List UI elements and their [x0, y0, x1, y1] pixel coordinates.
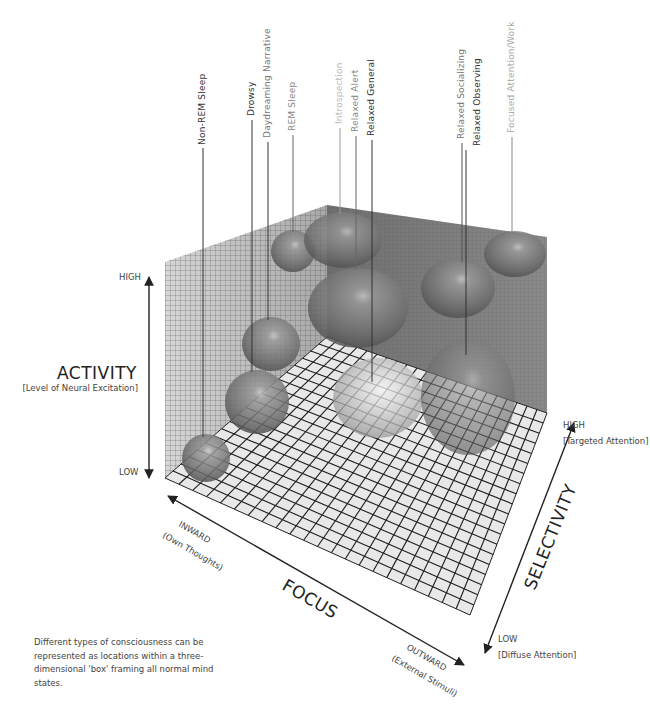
sphere-non-rem-sleep	[182, 434, 230, 482]
activity-axis-title: ACTIVITY	[57, 363, 137, 383]
sphere-focused-attention	[484, 231, 546, 277]
activity-axis-subtitle: [Level of Neural Excitation]	[22, 383, 138, 393]
label-relaxed-general: Relaxed General	[366, 59, 376, 136]
sphere-relaxed-socializing	[421, 258, 495, 318]
selectivity-low-subtitle: [Diffuse Attention]	[498, 650, 576, 660]
activity-high-label: HIGH	[119, 272, 141, 282]
selectivity-high-label: HIGH	[563, 420, 585, 430]
label-introspection: Introspection	[334, 62, 344, 124]
label-drowsy: Drowsy	[246, 81, 256, 116]
label-rem-sleep: REM Sleep	[287, 82, 297, 131]
sphere-relaxed-alert	[308, 268, 408, 348]
sphere-drowsy	[225, 370, 289, 434]
consciousness-box-diagram: Non-REM Sleep Drowsy Daydreaming Narrati…	[0, 0, 650, 713]
label-daydreaming-narrative: Daydreaming Narrative	[262, 28, 272, 138]
sphere-daydreaming	[242, 317, 300, 371]
activity-low-label: LOW	[119, 467, 139, 477]
selectivity-low-label: LOW	[498, 634, 518, 644]
sphere-relaxed-observing	[421, 339, 515, 455]
label-non-rem-sleep: Non-REM Sleep	[197, 74, 207, 145]
label-relaxed-socializing: Relaxed Socializing	[456, 49, 466, 139]
sphere-relaxed-general	[333, 358, 423, 438]
selectivity-high-subtitle: [Targeted Attention]	[563, 436, 649, 446]
label-relaxed-observing: Relaxed Observing	[472, 58, 482, 146]
label-focused-attention: Focused Attention/Work	[506, 21, 516, 133]
label-relaxed-alert: Relaxed Alert	[350, 69, 360, 132]
sphere-introspection	[304, 212, 382, 268]
caption: Different types of consciousness can be …	[34, 636, 214, 690]
